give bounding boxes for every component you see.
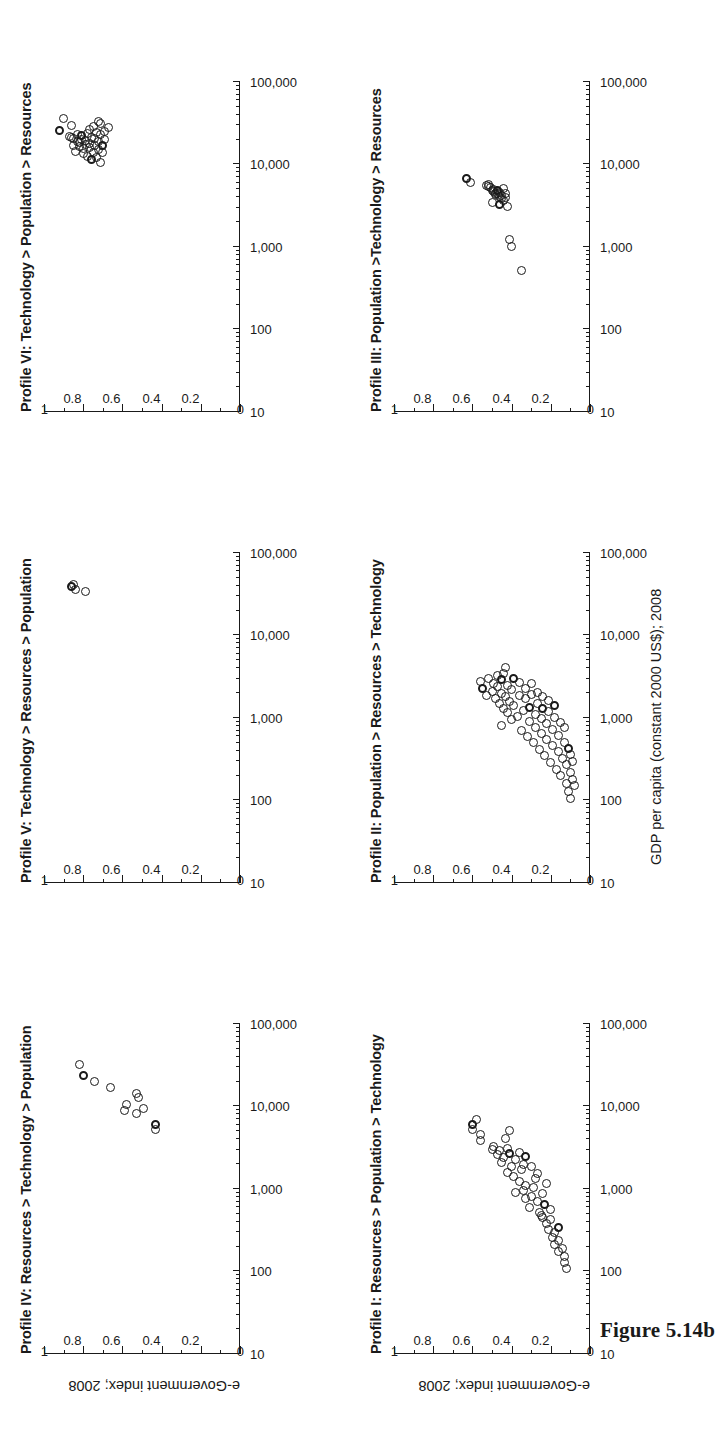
data-point	[501, 189, 510, 198]
y-tick-minor	[142, 1350, 143, 1354]
y-tick-label: 0	[237, 402, 244, 417]
x-tick-minor	[586, 667, 590, 668]
x-tick-label: 10,000	[600, 628, 640, 643]
x-tick-minor	[586, 347, 590, 348]
x-tick-minor	[586, 1114, 590, 1115]
x-tick-label: 10,000	[250, 1099, 290, 1114]
y-tick-minor	[220, 1350, 221, 1354]
y-tick-label: 0.2	[181, 862, 199, 877]
plot-area: 101001,00010,000100,00000.20.40.60.81	[394, 553, 590, 883]
x-tick-minor	[236, 1081, 240, 1082]
data-point	[55, 126, 64, 135]
x-tick-minor	[236, 341, 240, 342]
x-tick-minor	[236, 139, 240, 140]
data-point	[560, 723, 569, 732]
x-tick-minor	[236, 667, 240, 668]
data-point	[537, 1211, 546, 1220]
x-tick-minor	[236, 725, 240, 726]
x-tick-minor	[586, 254, 590, 255]
x-tick-label: 10,000	[600, 1099, 640, 1114]
x-tick-minor	[586, 114, 590, 115]
scatter-panel-profile-5: Profile V: Technology > Resources > Popu…	[18, 495, 348, 935]
x-tick-minor	[586, 1056, 590, 1057]
x-tick-minor	[586, 647, 590, 648]
x-axis-line	[239, 553, 240, 883]
y-tick-minor	[64, 408, 65, 412]
x-tick-minor	[586, 857, 590, 858]
x-tick-minor	[586, 1295, 590, 1296]
data-point	[538, 1189, 547, 1198]
y-tick-minor	[103, 1350, 104, 1354]
x-tick-minor	[236, 735, 240, 736]
data-point	[71, 585, 80, 594]
y-tick-major	[201, 1346, 202, 1354]
y-tick-label: 0.4	[142, 862, 160, 877]
x-tick-label: 1,000	[250, 240, 283, 255]
plot-area: 101001,00010,000100,00000.20.40.60.81	[44, 553, 240, 883]
x-tick-major	[583, 1023, 590, 1024]
x-tick-minor	[236, 1213, 240, 1214]
x-axis-line	[239, 82, 240, 412]
x-tick-minor	[236, 1303, 240, 1304]
y-tick-major	[83, 1346, 84, 1354]
y-tick-major	[472, 1346, 473, 1354]
data-point	[509, 701, 518, 710]
x-tick-minor	[236, 742, 240, 743]
y-tick-minor	[492, 879, 493, 883]
x-tick-minor	[586, 812, 590, 813]
x-tick-minor	[586, 638, 590, 639]
panel-title: Profile IV: Resources > Technology > Pop…	[18, 1025, 34, 1354]
x-tick-minor	[586, 730, 590, 731]
y-tick-major	[512, 875, 513, 883]
y-tick-major	[83, 404, 84, 412]
x-tick-major	[233, 164, 240, 165]
x-tick-minor	[586, 742, 590, 743]
y-tick-label: 0.8	[414, 391, 432, 406]
x-tick-minor	[236, 565, 240, 566]
x-tick-minor	[586, 556, 590, 557]
x-tick-minor	[586, 610, 590, 611]
x-tick-minor	[236, 1206, 240, 1207]
x-tick-minor	[586, 1196, 590, 1197]
x-tick-minor	[236, 372, 240, 373]
x-tick-minor	[586, 361, 590, 362]
y-tick-minor	[181, 879, 182, 883]
y-tick-major	[472, 875, 473, 883]
data-point	[67, 121, 76, 130]
x-tick-minor	[236, 585, 240, 586]
x-tick-minor	[236, 196, 240, 197]
x-tick-major	[233, 329, 240, 330]
x-tick-minor	[236, 89, 240, 90]
x-tick-minor	[236, 1279, 240, 1280]
x-tick-minor	[586, 760, 590, 761]
x-tick-minor	[236, 1041, 240, 1042]
y-tick-label: 0.2	[531, 1333, 549, 1348]
x-tick-minor	[236, 560, 240, 561]
panel-title: Profile I: Resources > Population > Tech…	[368, 1034, 384, 1354]
y-tick-major	[433, 404, 434, 412]
x-tick-minor	[586, 818, 590, 819]
x-tick-minor	[586, 808, 590, 809]
data-point	[139, 1104, 148, 1113]
y-tick-major	[162, 875, 163, 883]
x-tick-minor	[236, 337, 240, 338]
x-tick-label: 100	[250, 793, 272, 808]
x-tick-minor	[586, 89, 590, 90]
x-tick-minor	[586, 1138, 590, 1139]
x-tick-minor	[586, 1231, 590, 1232]
x-tick-minor	[586, 167, 590, 168]
x-tick-minor	[586, 182, 590, 183]
x-tick-minor	[236, 85, 240, 86]
y-tick-minor	[181, 408, 182, 412]
data-point	[566, 794, 575, 803]
x-tick-minor	[236, 1130, 240, 1131]
x-tick-minor	[236, 353, 240, 354]
y-axis-title: e-Government index; 2008	[68, 1378, 240, 1394]
x-tick-major	[233, 800, 240, 801]
data-point	[75, 1060, 84, 1069]
x-tick-minor	[586, 832, 590, 833]
x-tick-minor	[236, 176, 240, 177]
x-tick-minor	[236, 653, 240, 654]
data-point	[527, 1162, 536, 1171]
